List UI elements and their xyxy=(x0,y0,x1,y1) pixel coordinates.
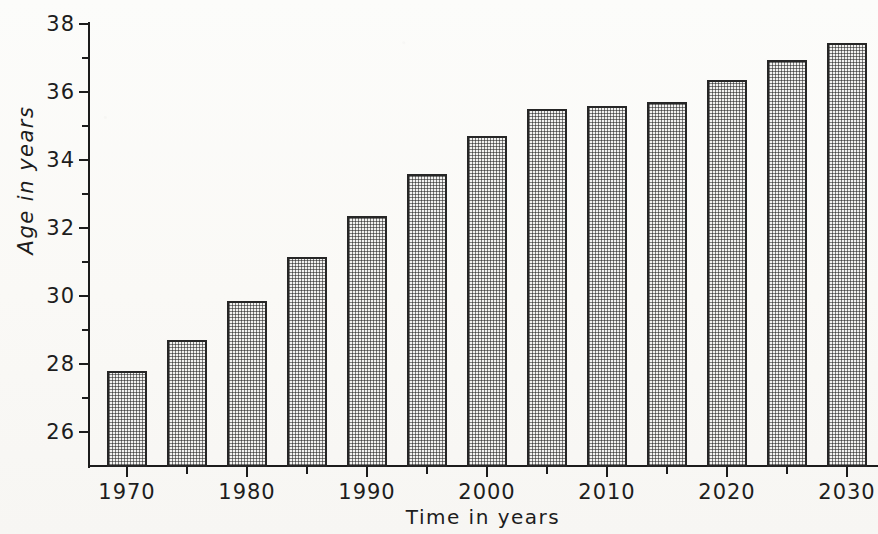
x-axis-minor-tick xyxy=(306,466,308,474)
y-axis-minor-tick xyxy=(82,397,90,399)
y-axis-tick-label: 36 xyxy=(46,80,75,104)
y-axis-major-tick xyxy=(79,227,90,229)
y-axis-minor-tick xyxy=(82,193,90,195)
bar xyxy=(347,216,387,467)
x-axis-minor-tick xyxy=(546,466,548,474)
y-axis-tick-label: 26 xyxy=(46,420,75,444)
y-axis-tick-label: 32 xyxy=(46,216,75,240)
bar xyxy=(827,43,867,467)
y-axis-major-tick xyxy=(79,91,90,93)
bar xyxy=(407,174,447,467)
bar xyxy=(587,106,627,467)
x-axis-tick-label: 2000 xyxy=(458,480,515,504)
y-axis-tick-label: 38 xyxy=(46,12,75,36)
y-axis-major-tick xyxy=(79,23,90,25)
bar-chart-figure: 26283032343638 Age in years 197019801990… xyxy=(0,0,878,534)
x-axis-title: Time in years xyxy=(88,505,878,529)
x-axis-minor-tick xyxy=(186,466,188,474)
x-axis-tick-label: 1980 xyxy=(218,480,275,504)
bar xyxy=(167,340,207,467)
x-axis-tick-label: 2030 xyxy=(818,480,875,504)
bar xyxy=(767,60,807,467)
x-axis-minor-tick xyxy=(666,466,668,474)
bar xyxy=(527,109,567,467)
bar xyxy=(227,301,267,467)
y-axis-tick-label: 30 xyxy=(46,284,75,308)
y-axis-title: Age in years xyxy=(14,30,38,330)
y-axis-minor-tick xyxy=(82,329,90,331)
y-axis-minor-tick xyxy=(82,261,90,263)
y-axis-major-tick xyxy=(79,159,90,161)
bar xyxy=(287,257,327,467)
x-axis-tick-label: 2010 xyxy=(578,480,635,504)
bar xyxy=(647,102,687,467)
x-axis-major-tick xyxy=(486,466,488,477)
y-axis-major-tick xyxy=(79,295,90,297)
y-axis-major-tick xyxy=(79,363,90,365)
x-axis-tick-label: 1970 xyxy=(98,480,155,504)
y-axis-tick-label: 28 xyxy=(46,352,75,376)
x-axis-major-tick xyxy=(366,466,368,477)
y-axis-minor-tick xyxy=(82,125,90,127)
x-axis-tick-label: 1990 xyxy=(338,480,395,504)
x-axis-minor-tick xyxy=(426,466,428,474)
y-axis-minor-tick xyxy=(82,57,90,59)
x-axis-major-tick xyxy=(126,466,128,477)
x-axis-major-tick xyxy=(606,466,608,477)
x-axis-major-tick xyxy=(246,466,248,477)
bar xyxy=(707,80,747,467)
y-axis-major-tick xyxy=(79,431,90,433)
x-axis-major-tick xyxy=(726,466,728,477)
x-axis-major-tick xyxy=(846,466,848,477)
y-axis-tick-label: 34 xyxy=(46,148,75,172)
x-axis-minor-tick xyxy=(786,466,788,474)
bar xyxy=(107,371,147,467)
x-axis-tick-label: 2020 xyxy=(698,480,755,504)
bar xyxy=(467,136,507,467)
